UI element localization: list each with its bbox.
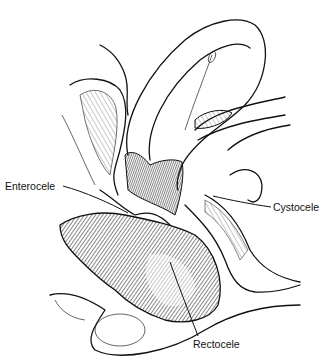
prolapse-illustration: Enterocele Cystocele Rectocele [0, 0, 330, 361]
bowel-loops [62, 45, 128, 195]
rectum-mass [60, 213, 220, 322]
rectocele-label: Rectocele [193, 339, 240, 350]
enterocele-label: Enterocele [5, 181, 55, 192]
cystocele-label: Cystocele [273, 202, 319, 213]
bladder-shape [195, 97, 290, 150]
